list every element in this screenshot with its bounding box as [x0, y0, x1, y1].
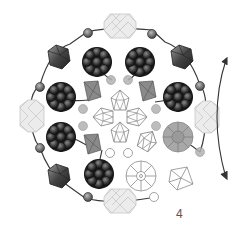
faceted-rondelle-bottom	[104, 189, 136, 213]
inner-bicone-tr	[139, 81, 156, 101]
dark-cluster-5	[46, 122, 76, 152]
step-number: 4	[176, 207, 183, 221]
outline-crystal-right	[127, 108, 147, 126]
outline-bicone-corner	[169, 167, 193, 190]
gray-rivoli	[163, 122, 193, 152]
dark-cluster-4	[163, 82, 193, 112]
dark-cluster-3	[46, 82, 76, 112]
beading-diagram	[0, 0, 241, 232]
dark-cluster-2	[125, 47, 155, 77]
faceted-rondelle-left	[20, 100, 44, 132]
inner-bicone-bl	[84, 134, 101, 154]
outline-crystal-left	[93, 108, 113, 126]
dark-cluster-6	[84, 159, 114, 189]
outline-crystal-bottom	[111, 122, 129, 142]
dark-cluster-1	[82, 47, 112, 77]
bicone-top-right	[171, 45, 193, 69]
outline-rivoli	[126, 161, 156, 191]
bicone-top-left	[48, 45, 70, 69]
faceted-rondelle-right	[195, 101, 219, 133]
outline-crystal-top	[111, 90, 129, 110]
inner-bicone-tl	[84, 81, 101, 101]
faceted-rondelle-top	[104, 14, 136, 38]
outline-crystal-br	[135, 127, 161, 153]
